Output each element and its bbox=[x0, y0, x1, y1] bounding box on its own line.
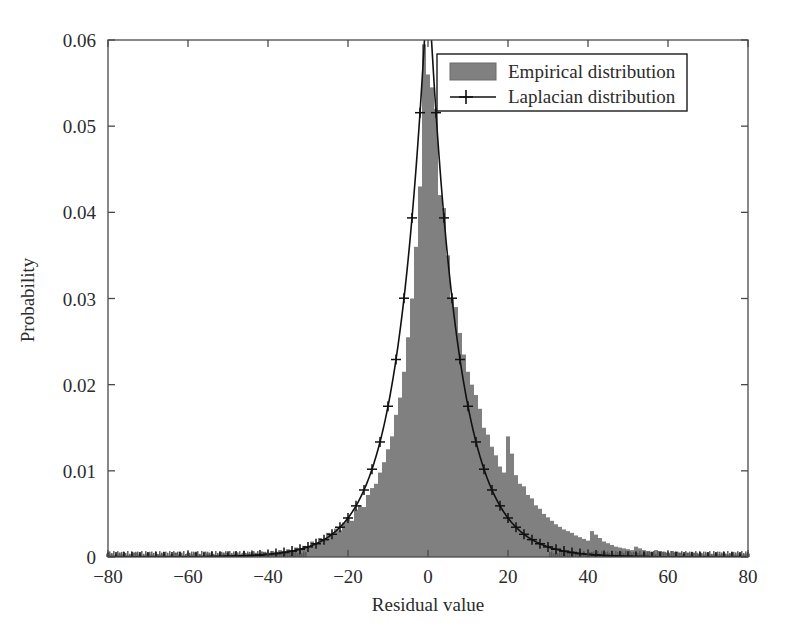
histogram-bar bbox=[506, 436, 510, 557]
histogram-bar bbox=[378, 473, 382, 557]
histogram-noise-bar bbox=[145, 551, 146, 557]
histogram-bar bbox=[510, 454, 514, 557]
x-tick-labels: −80−60−40−20020406080 bbox=[93, 566, 757, 587]
histogram-noise-bar bbox=[109, 551, 110, 557]
histogram-bar bbox=[426, 74, 430, 557]
histogram-noise-bar bbox=[727, 551, 728, 557]
histogram-noise-bar bbox=[713, 551, 714, 557]
histogram-bar bbox=[486, 435, 490, 557]
histogram-noise-bar bbox=[305, 552, 306, 557]
histogram-noise-bar bbox=[159, 551, 160, 557]
histogram-noise-bar bbox=[293, 552, 294, 557]
x-tick-label: 40 bbox=[579, 566, 598, 587]
y-tick-label: 0.03 bbox=[63, 289, 96, 310]
x-tick-label: −80 bbox=[93, 566, 123, 587]
histogram-noise-bar bbox=[741, 551, 742, 557]
histogram-bar bbox=[526, 495, 530, 557]
y-axis-title: Probability bbox=[17, 257, 38, 342]
y-tick-label: 0 bbox=[87, 547, 97, 568]
histogram-bar bbox=[534, 505, 538, 557]
histogram-bar bbox=[366, 495, 370, 557]
x-tick-label: 80 bbox=[739, 566, 758, 587]
histogram-noise-bar bbox=[737, 551, 738, 557]
y-tick-label: 0.04 bbox=[63, 202, 97, 223]
chart-legend: Empirical distribution Laplacian distrib… bbox=[437, 54, 687, 111]
histogram-bar bbox=[446, 255, 450, 557]
histogram-bar bbox=[498, 467, 502, 557]
histogram-noise-bar bbox=[551, 551, 552, 557]
x-tick-label: −40 bbox=[253, 566, 283, 587]
x-tick-label: −20 bbox=[333, 566, 363, 587]
histogram-bar bbox=[386, 449, 390, 557]
histogram-bar bbox=[474, 395, 478, 557]
y-tick-label: 0.06 bbox=[63, 30, 96, 51]
histogram-bar bbox=[450, 299, 454, 558]
figure-container: −80−60−40−20020406080 00.010.020.030.040… bbox=[0, 0, 796, 639]
x-axis-title: Residual value bbox=[372, 594, 484, 615]
histogram-noise-bar bbox=[295, 551, 296, 557]
legend-swatch-empirical bbox=[450, 63, 496, 80]
histogram-bar bbox=[390, 436, 394, 557]
histogram-bar bbox=[350, 521, 354, 557]
histogram-bar bbox=[418, 186, 422, 557]
x-tick-label: 20 bbox=[499, 566, 518, 587]
histogram-bar bbox=[482, 428, 486, 557]
histogram-bar bbox=[514, 475, 518, 557]
histogram-bar bbox=[430, 87, 434, 557]
histogram-noise-bar bbox=[745, 551, 746, 557]
y-tick-label: 0.05 bbox=[63, 116, 96, 137]
histogram-bar bbox=[438, 195, 442, 557]
histogram-bar bbox=[442, 208, 446, 557]
histogram-noise-bar bbox=[549, 552, 550, 557]
histogram-noise-bar bbox=[141, 551, 142, 557]
histogram-bar bbox=[354, 510, 358, 557]
histogram-bar bbox=[358, 505, 362, 557]
histogram-bar bbox=[406, 337, 410, 557]
histogram-noise-bar bbox=[561, 552, 562, 557]
probability-distribution-chart: −80−60−40−20020406080 00.010.020.030.040… bbox=[0, 0, 796, 639]
histogram-bar bbox=[478, 409, 482, 557]
histogram-bar bbox=[434, 109, 438, 557]
histogram-noise-bar bbox=[257, 551, 258, 557]
histogram-noise-bar bbox=[559, 551, 560, 557]
histogram-noise-bar bbox=[113, 551, 114, 557]
histogram-noise-bar bbox=[303, 551, 304, 557]
histogram-bar bbox=[470, 385, 474, 557]
histogram-bar bbox=[382, 462, 386, 557]
histogram-bar bbox=[370, 488, 374, 557]
histogram-noise-bar bbox=[127, 551, 128, 557]
x-tick-label: −60 bbox=[173, 566, 203, 587]
histogram-bar bbox=[374, 484, 378, 557]
histogram-bar bbox=[414, 247, 418, 557]
histogram-noise-bar bbox=[117, 551, 118, 557]
histogram-bar bbox=[410, 299, 414, 558]
y-tick-label: 0.02 bbox=[63, 375, 96, 396]
y-tick-label: 0.01 bbox=[63, 461, 96, 482]
x-tick-label: 60 bbox=[659, 566, 678, 587]
legend-label-empirical: Empirical distribution bbox=[508, 61, 676, 82]
histogram-noise-bar bbox=[709, 551, 710, 557]
histogram-bar bbox=[398, 398, 402, 557]
histogram-bar bbox=[538, 509, 542, 557]
histogram-noise-bar bbox=[597, 551, 598, 557]
histogram-bar bbox=[422, 44, 426, 557]
histogram-bar bbox=[522, 486, 526, 557]
histogram-bar bbox=[542, 514, 546, 557]
histogram-noise-bar bbox=[695, 551, 696, 557]
legend-label-laplacian: Laplacian distribution bbox=[508, 86, 676, 107]
x-tick-label: 0 bbox=[423, 566, 433, 587]
histogram-bar bbox=[490, 447, 494, 557]
histogram-bar bbox=[394, 415, 398, 557]
histogram-bar bbox=[530, 498, 534, 557]
histogram-bar bbox=[362, 507, 366, 557]
histogram-bar bbox=[338, 530, 342, 557]
histogram-bar bbox=[402, 372, 406, 557]
histogram-bar bbox=[518, 484, 522, 557]
